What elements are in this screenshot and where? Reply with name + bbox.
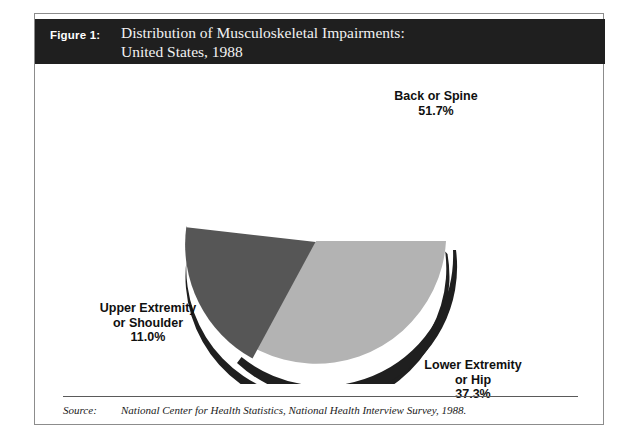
pie-label-back-or-spine: Back or Spine 51.7% <box>376 89 496 118</box>
figure-title-band: Figure 1: Distribution of Musculoskeleta… <box>35 19 605 64</box>
source-label: Source: <box>63 404 121 416</box>
source-note: Source:National Center for Health Statis… <box>63 404 466 416</box>
figure-title: Distribution of Musculoskeletal Impairme… <box>121 23 405 61</box>
pie-label-lower-extremity: Lower Extremity or Hip 37.3% <box>403 358 543 402</box>
pie-label-back-or-spine-value: 51.7% <box>376 104 496 119</box>
source-text: National Center for Health Statistics, N… <box>121 404 466 416</box>
pie-label-back-or-spine-name: Back or Spine <box>376 89 496 104</box>
figure-title-line-2: United States, 1988 <box>121 42 405 61</box>
pie-label-upper-extremity: Upper Extremity or Shoulder 11.0% <box>73 301 223 345</box>
pie-chart: Back or Spine 51.7% Upper Extremity or S… <box>35 64 605 384</box>
figure-frame: Figure 1: Distribution of Musculoskeleta… <box>34 13 604 425</box>
pie-label-lower-extremity-value: 37.3% <box>403 387 543 402</box>
source-divider <box>63 396 578 397</box>
figure-number-label: Figure 1: <box>50 29 100 41</box>
pie-label-upper-extremity-name-2: or Shoulder <box>73 316 223 331</box>
pie-label-lower-extremity-name-1: Lower Extremity <box>403 358 543 373</box>
pie-label-lower-extremity-name-2: or Hip <box>403 373 543 388</box>
figure-title-line-1: Distribution of Musculoskeletal Impairme… <box>121 23 405 42</box>
pie-label-upper-extremity-name-1: Upper Extremity <box>73 301 223 316</box>
pie-label-upper-extremity-value: 11.0% <box>73 330 223 345</box>
